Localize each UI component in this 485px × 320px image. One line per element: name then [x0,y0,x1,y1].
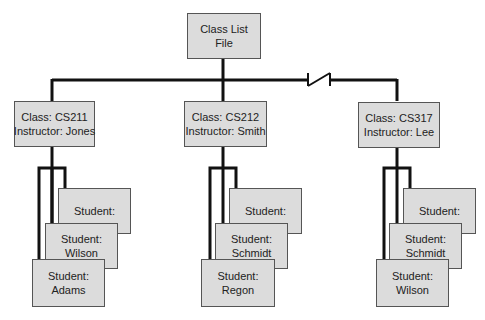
instructor-label: Instructor: Jones [14,124,95,138]
student-node: Student: Regon [201,259,275,307]
class-node-cs211: Class: CS211 Instructor: Jones [14,101,95,147]
class-list-diagram: Class List File Class: CS211 Instructor:… [0,0,485,320]
student-node: Student: Adams [32,259,105,307]
class-label: Class: CS212 [192,110,259,124]
class-label: Class: CS211 [21,110,87,124]
class-node-cs317: Class: CS317 Instructor: Lee [358,102,440,148]
root-line2: File [215,36,233,50]
class-label: Class: CS317 [365,111,432,125]
root-node: Class List File [187,13,261,59]
instructor-label: Instructor: Smith [185,124,265,138]
student-node: Student: Wilson [376,259,449,307]
break-symbol [308,73,330,86]
root-line1: Class List [200,22,248,36]
class-node-cs212: Class: CS212 Instructor: Smith [184,101,267,147]
instructor-label: Instructor: Lee [364,125,434,139]
